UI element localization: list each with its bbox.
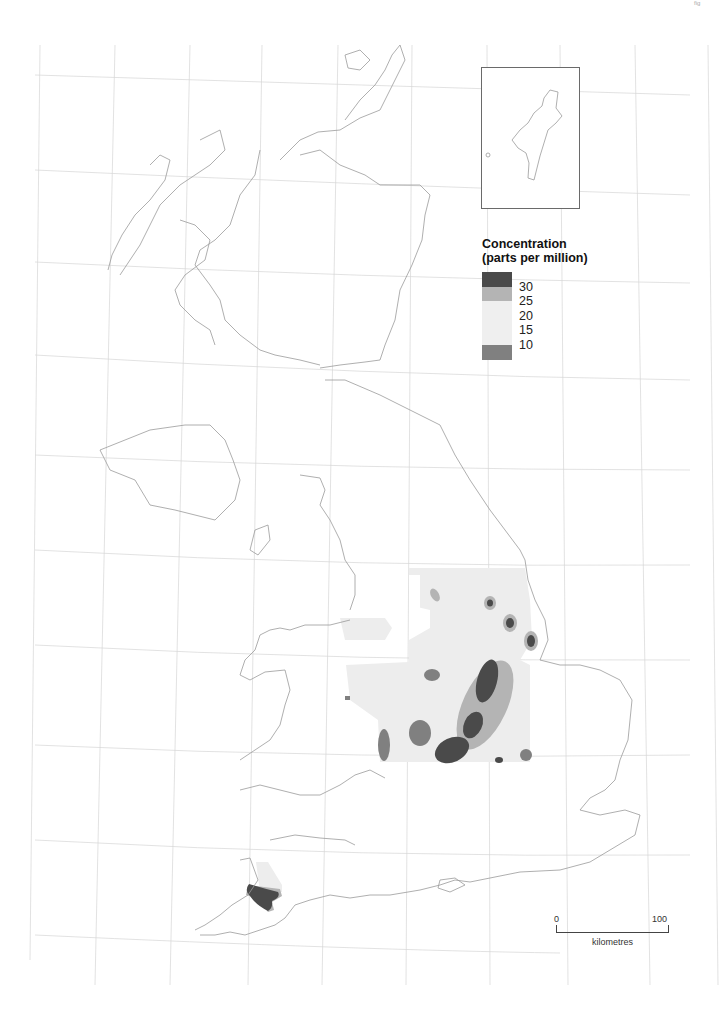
corner-mark: fig [694, 0, 716, 6]
scale-start-label: 0 [554, 914, 559, 924]
legend-tick-25: 25 [519, 295, 533, 308]
legend-title-line1: Concentration [482, 237, 622, 251]
graticule-grid [30, 45, 718, 985]
scale-bar-line [556, 925, 669, 933]
legend-swatch-below-10 [482, 345, 512, 360]
concentration-layer-southwest [246, 862, 282, 912]
legend-swatch-25-30 [482, 287, 512, 301]
scale-bar: 0 100 kilometres [552, 914, 672, 954]
legend-color-bar [482, 272, 512, 360]
shetland-inset-map [481, 67, 580, 209]
legend-swatch-above-30 [482, 272, 512, 287]
scale-end-label: 100 [652, 914, 667, 924]
concentration-layer-england [340, 568, 538, 768]
legend-swatch-15-25 [482, 301, 512, 345]
legend-tick-30: 30 [519, 281, 533, 294]
map-canvas [0, 0, 725, 1016]
legend: Concentration (parts per million) 30 25 … [482, 237, 622, 372]
legend-tick-10: 10 [519, 339, 533, 352]
scale-unit-label: kilometres [592, 937, 633, 947]
legend-tick-15: 15 [519, 324, 533, 337]
legend-tick-20: 20 [519, 310, 533, 323]
legend-body: 30 25 20 15 10 [482, 272, 622, 372]
legend-title-line2: (parts per million) [482, 251, 622, 265]
shetland-outline [482, 68, 579, 208]
